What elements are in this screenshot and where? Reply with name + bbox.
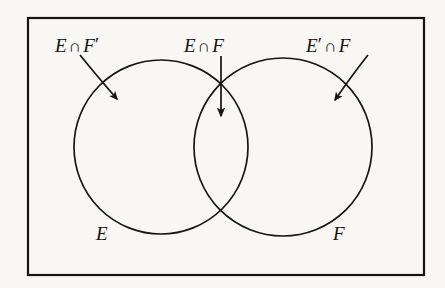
universal-set-rectangle (28, 18, 424, 275)
set-f-label: F (333, 224, 345, 243)
label-e-intersect-f-complement-set1: E (55, 35, 67, 56)
prime-symbol-icon: ′ (318, 34, 322, 55)
label-e-intersect-f-set2: F (212, 35, 224, 56)
arrow-to-e-only-region (80, 55, 117, 99)
prime-symbol-icon: ′ (95, 34, 99, 55)
intersection-operator-icon: ∩ (322, 37, 338, 56)
set-e-circle (74, 60, 248, 234)
arrow-to-f-only-region (335, 55, 368, 100)
label-e-complement-intersect-f: E′∩F (306, 36, 350, 55)
label-e-intersect-f-complement: E∩F′ (55, 36, 99, 55)
label-e-complement-intersect-f-set1: E (306, 35, 318, 56)
label-e-complement-intersect-f-set2: F (339, 35, 351, 56)
label-e-intersect-f: E∩F (184, 36, 224, 55)
label-e-intersect-f-set1: E (184, 35, 196, 56)
venn-diagram-figure: E∩F′ E∩F E′∩F E F (0, 0, 445, 288)
set-e-label: E (96, 224, 108, 243)
intersection-operator-icon: ∩ (67, 37, 83, 56)
intersection-operator-icon: ∩ (196, 37, 212, 56)
label-e-intersect-f-complement-set2: F (83, 35, 95, 56)
